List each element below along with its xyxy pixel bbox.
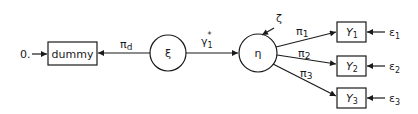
zeta-label: ζ (276, 12, 282, 25)
zero-input-label: 0. (20, 48, 31, 61)
pi-d-label: πd (120, 38, 132, 52)
gamma-label: γ1* (201, 31, 213, 50)
e3-label: ε3 (389, 92, 400, 107)
y2-node: Y2 (337, 56, 366, 76)
dummy-node: dummy (48, 42, 97, 65)
xi-node: ξ (150, 35, 186, 71)
e2-label: ε2 (389, 60, 400, 75)
dummy-label: dummy (52, 48, 94, 61)
y3-node: Y3 (337, 88, 366, 108)
eta-label: η (255, 47, 262, 60)
eta-node: η (239, 34, 277, 72)
pi-2-label: π2 (298, 47, 310, 61)
zeta-arrow (262, 28, 274, 35)
e1-label: ε1 (389, 26, 400, 41)
pi-1-label: π1 (296, 25, 308, 39)
xi-label: ξ (165, 47, 171, 60)
path-diagram: 0. dummy πd ξ γ1* η ζ π1 π2 π3 Y1 Y2 Y3 (0, 0, 418, 114)
y1-node: Y1 (337, 22, 366, 42)
pi-3-label: π3 (300, 67, 312, 81)
